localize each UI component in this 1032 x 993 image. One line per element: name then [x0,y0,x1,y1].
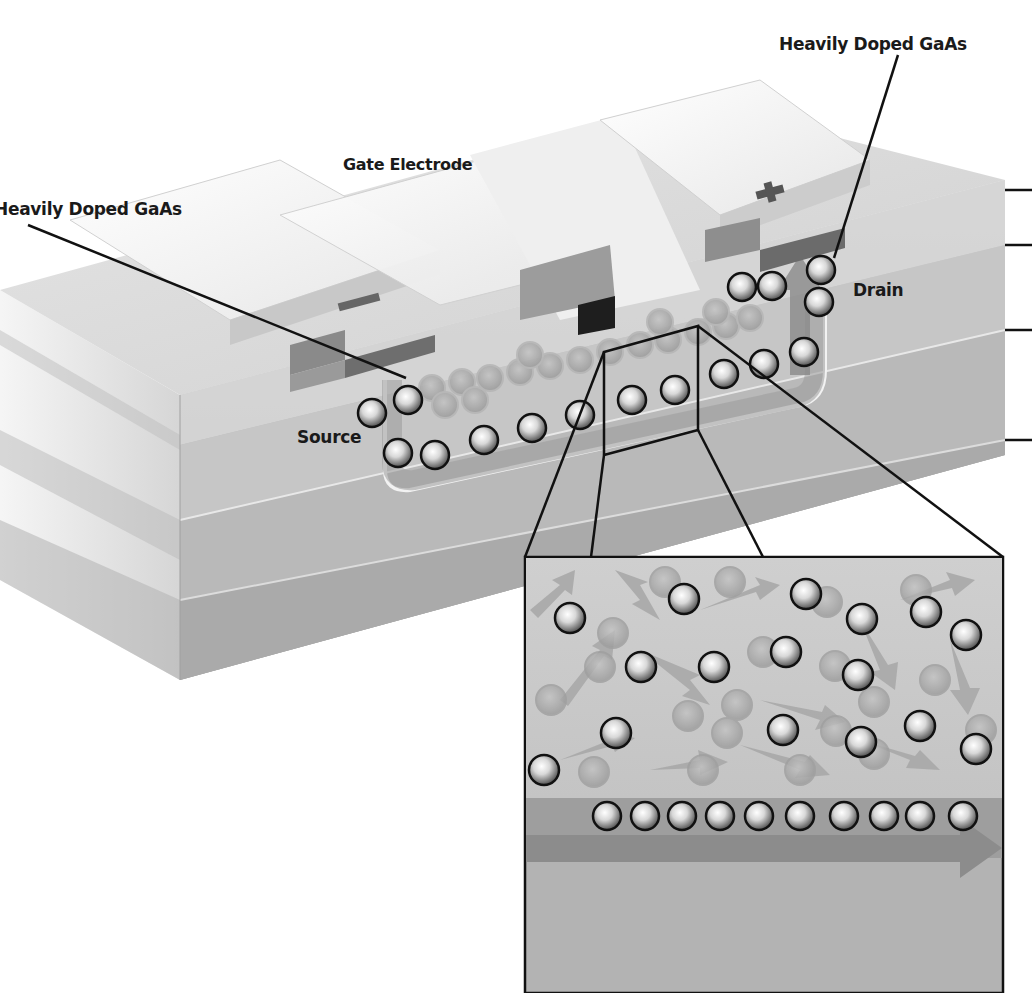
label-source: Source [297,427,361,447]
label-heavily-doped-gaas-drain: Heavily Doped GaAs [779,34,967,54]
inset-magnified-view [525,557,1003,993]
diagram-canvas [0,0,1032,993]
label-gate-electrode: Gate Electrode [343,155,472,174]
label-drain: Drain [853,280,903,300]
label-heavily-doped-gaas-source: Heavily Doped GaAs [0,199,182,219]
hemt-diagram: Heavily Doped GaAs Heavily Doped GaAs Ga… [0,0,1032,993]
